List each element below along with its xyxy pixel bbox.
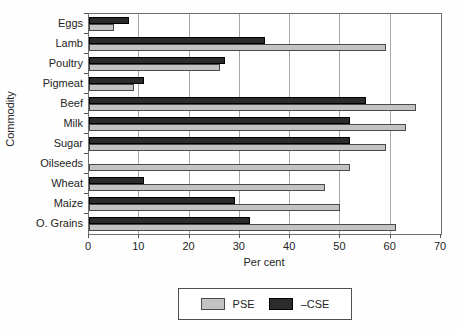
y-tick-mark [84, 53, 88, 54]
x-tick-mark [189, 234, 190, 238]
y-tick-mark [84, 133, 88, 134]
x-tick-mark [339, 234, 340, 238]
y-tick-label: Eggs [13, 13, 83, 33]
pse-bar [89, 44, 386, 51]
x-tick-mark [440, 234, 441, 238]
pse-bar [89, 164, 350, 171]
pse-bar [89, 24, 114, 31]
bar-group-oilseeds [89, 154, 441, 174]
x-tick-label: 60 [375, 240, 405, 252]
cse-bar [89, 77, 144, 84]
bar-group-sugar [89, 134, 441, 154]
cse-bar [89, 117, 350, 124]
bar-group-poultry [89, 54, 441, 74]
y-tick-label: Maize [13, 193, 83, 213]
y-tick-label: Poultry [13, 53, 83, 73]
y-tick-mark [84, 113, 88, 114]
cse-bar [89, 97, 366, 104]
legend-box: PSE –CSE [178, 288, 352, 320]
y-tick-label: Beef [13, 93, 83, 113]
x-tick-label: 50 [324, 240, 354, 252]
legend-label-pse: PSE [233, 298, 255, 310]
x-tick-mark [390, 234, 391, 238]
y-tick-mark [84, 193, 88, 194]
x-tick-mark [88, 234, 89, 238]
bar-group-milk [89, 114, 441, 134]
y-tick-label: Lamb [13, 33, 83, 53]
y-tick-mark [84, 73, 88, 74]
x-tick-mark [138, 234, 139, 238]
x-tick-mark [239, 234, 240, 238]
bar-group-beef [89, 94, 441, 114]
pse-bar [89, 104, 416, 111]
y-tick-label: Sugar [13, 133, 83, 153]
pse-bar [89, 224, 396, 231]
y-tick-mark [84, 13, 88, 14]
bar-group-pigmeat [89, 74, 441, 94]
cse-swatch-icon [269, 298, 293, 310]
cse-bar [89, 17, 129, 24]
cse-bar [89, 137, 350, 144]
x-tick-label: 40 [274, 240, 304, 252]
pse-bar [89, 184, 325, 191]
pse-bar [89, 84, 134, 91]
pse-bar [89, 124, 406, 131]
bar-group-maize [89, 194, 441, 214]
cse-bar [89, 177, 144, 184]
x-tick-label: 10 [123, 240, 153, 252]
y-tick-label: Wheat [13, 173, 83, 193]
y-tick-mark [84, 173, 88, 174]
y-tick-label: O. Grains [13, 213, 83, 233]
cse-bar [89, 57, 225, 64]
legend-item-pse: PSE [201, 298, 255, 310]
pse-bar [89, 204, 340, 211]
y-tick-mark [84, 93, 88, 94]
bar-group-wheat [89, 174, 441, 194]
pse-swatch-icon [201, 298, 225, 310]
plot-area [88, 13, 442, 235]
x-axis-title: Per cent [88, 256, 440, 268]
y-tick-label: Pigmeat [13, 73, 83, 93]
y-tick-mark [84, 213, 88, 214]
x-tick-mark [289, 234, 290, 238]
bar-group-lamb [89, 34, 441, 54]
bar-group-eggs [89, 14, 441, 34]
y-tick-mark [84, 153, 88, 154]
x-tick-label: 30 [224, 240, 254, 252]
y-tick-label: Milk [13, 113, 83, 133]
y-tick-label: Oilseeds [13, 153, 83, 173]
cse-bar [89, 217, 250, 224]
cse-bar [89, 197, 235, 204]
cse-bar [89, 37, 265, 44]
legend-item-cse: –CSE [269, 298, 330, 310]
x-tick-label: 20 [174, 240, 204, 252]
pse-bar [89, 144, 386, 151]
x-tick-label: 0 [73, 240, 103, 252]
y-tick-mark [84, 33, 88, 34]
pse-bar [89, 64, 220, 71]
bar-group-o-grains [89, 214, 441, 234]
bar-chart-figure: Commodity Per cent PSE –CSE EggsLambPoul… [0, 0, 459, 331]
legend-label-cse: –CSE [301, 298, 330, 310]
x-tick-label: 70 [425, 240, 455, 252]
